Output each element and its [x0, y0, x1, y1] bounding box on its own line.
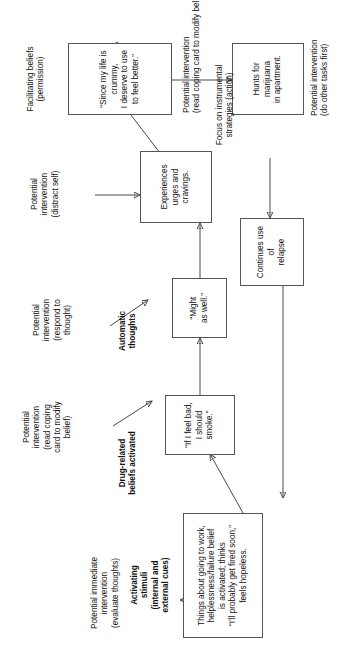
intervention-label-do-other-tasks: Potential intervention (do other tasks f…: [310, 0, 331, 116]
diagram-canvas: Things about going to work, helplessness…: [0, 0, 344, 658]
edge-activating-to-drug-belief: [210, 454, 243, 513]
intervention-label-distract-self: Potential intervention (distract self): [30, 144, 61, 244]
node-activating-stimuli[interactable]: Things about going to work, helplessness…: [183, 513, 263, 638]
node-urges-cravings[interactable]: Experiences urges and cravings.: [140, 151, 212, 223]
intervention-label-respond-to-thought: Potential intervention (respond to thoug…: [32, 278, 73, 362]
stage-label-instrumental-strategies: Focus on instrumental strategies (action…: [215, 42, 236, 168]
intervention-label-coping-card-modify: Potential intervention (read coping card…: [182, 0, 203, 113]
stage-label-facilitating-beliefs: Facilitating beliefs (permission): [26, 20, 47, 138]
stage-label-drug-related-beliefs: Drug-related beliefs activated: [118, 418, 139, 508]
stage-label-activating-stimuli: Activating stimuli (internal and externa…: [130, 530, 171, 640]
node-continues-use-relapse[interactable]: Continues use of relapse: [240, 218, 304, 286]
diagram-page: Things about going to work, helplessness…: [0, 0, 344, 658]
node-hunts-for-marijuana[interactable]: Hunts for marijuana in apartment.: [232, 43, 304, 115]
intervention-label-coping-card-belief: Potential intervention (read coping card…: [22, 381, 73, 473]
node-facilitating-belief[interactable]: “Since my life is crummy, I deserve to u…: [68, 43, 172, 115]
stage-label-automatic-thoughts: Automatic thoughts: [118, 294, 139, 368]
intervention-label-evaluate-thoughts: Potential immediate intervention (evalua…: [90, 533, 121, 653]
node-drug-related-belief[interactable]: “If I feel bad, I should smoke.”: [165, 395, 235, 455]
node-automatic-thought[interactable]: “Might as well.”: [172, 278, 227, 338]
